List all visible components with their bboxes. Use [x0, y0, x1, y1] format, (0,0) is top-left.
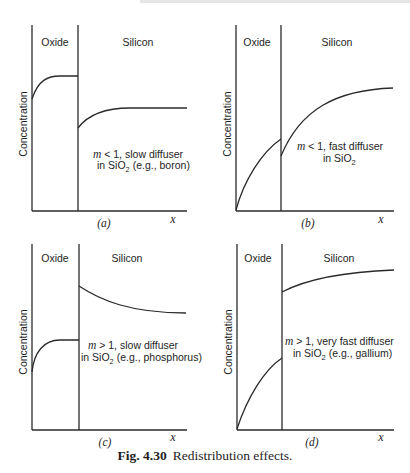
- silicon-concentration-curve: [79, 286, 186, 313]
- oxide-label: Oxide: [244, 252, 272, 264]
- figure-number: Fig. 4.30: [118, 448, 167, 463]
- panel-sublabel: (a): [97, 217, 111, 230]
- oxide-concentration-curve: [236, 139, 281, 210]
- redistribution-figure: Oxide Silicon Concentration m < 1, slow …: [0, 0, 410, 473]
- oxide-label: Oxide: [243, 36, 271, 48]
- annotation-line-1: m < 1, fast diffuser: [297, 140, 384, 152]
- x-axis-label: x: [169, 430, 176, 444]
- panel-a: Oxide Silicon Concentration m < 1, slow …: [17, 25, 190, 230]
- oxide-concentration-curve: [237, 358, 282, 429]
- x-axis-label: x: [377, 212, 384, 226]
- silicon-label: Silicon: [324, 252, 355, 264]
- silicon-label: Silicon: [112, 252, 143, 264]
- annotation-line-2: in SiO2 (e.g., boron): [97, 159, 190, 174]
- y-axis-label: Concentration: [221, 91, 233, 157]
- annotation-line-2: in SiO2 (e.g., phosphorus): [81, 351, 202, 366]
- annotation-line-2: in SiO2 (e.g., gallium): [293, 347, 392, 362]
- silicon-concentration-curve: [282, 270, 394, 292]
- oxide-concentration-curve: [32, 76, 78, 99]
- oxide-concentration-curve: [32, 340, 79, 372]
- figure-caption: Fig. 4.30Redistribution effects.: [0, 448, 410, 464]
- y-axis-label: Concentration: [17, 309, 29, 375]
- annotation-line-2: in SiO2: [323, 152, 356, 167]
- panel-d: Oxide Silicon Concentration m > 1, very …: [222, 244, 394, 449]
- silicon-label: Silicon: [322, 36, 353, 48]
- oxide-label: Oxide: [41, 36, 69, 48]
- x-axis-label: x: [169, 212, 176, 226]
- y-axis-label: Concentration: [222, 309, 234, 375]
- annotation-line-1: m > 1, very fast diffuser: [285, 335, 394, 347]
- annotation-line-1: m > 1, slow diffuser: [88, 339, 179, 351]
- panel-b: Oxide Silicon Concentration m < 1, fast …: [221, 25, 394, 230]
- silicon-concentration-curve: [78, 108, 187, 128]
- panel-sublabel: (b): [301, 217, 315, 230]
- panel-c: Oxide Silicon Concentration m > 1, slow …: [17, 244, 202, 449]
- x-axis-label: x: [377, 430, 384, 444]
- oxide-label: Oxide: [41, 252, 69, 264]
- figure-caption-text: Redistribution effects.: [173, 448, 293, 463]
- silicon-label: Silicon: [123, 36, 154, 48]
- y-axis-label: Concentration: [17, 91, 29, 157]
